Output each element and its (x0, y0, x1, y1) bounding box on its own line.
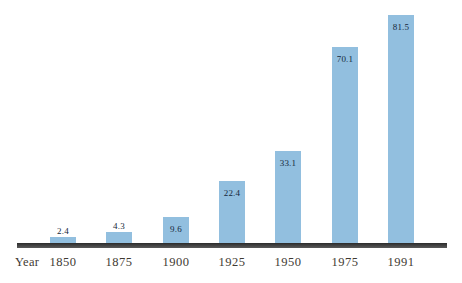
bar-value-label: 2.4 (50, 226, 76, 236)
x-tick-label: 1850 (38, 255, 88, 270)
bar-value-label: 81.5 (388, 22, 414, 32)
bar-value-label: 70.1 (332, 54, 358, 64)
bar (388, 15, 414, 244)
x-tick-label: 1975 (320, 255, 370, 270)
bar (332, 47, 358, 244)
x-tick-label: 1950 (263, 255, 313, 270)
x-tick-label: 1991 (376, 255, 426, 270)
x-axis-line (17, 243, 447, 248)
x-tick-label: 1875 (94, 255, 144, 270)
bar-value-label: 33.1 (275, 158, 301, 168)
x-axis-title: Year (15, 255, 39, 270)
bar-chart: 2.44.39.622.433.170.181.5 Year 185018751… (0, 0, 462, 283)
bar-value-label: 9.6 (163, 224, 189, 234)
bar-value-label: 22.4 (219, 188, 245, 198)
x-tick-label: 1925 (207, 255, 257, 270)
x-tick-label: 1900 (151, 255, 201, 270)
bar-value-label: 4.3 (106, 221, 132, 231)
